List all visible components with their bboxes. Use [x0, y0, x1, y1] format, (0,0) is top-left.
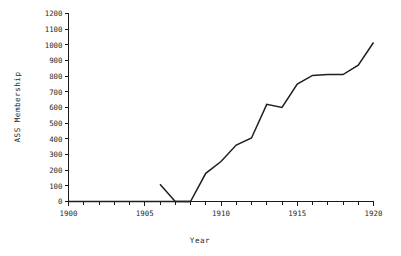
x-tick-label: 1915	[288, 209, 306, 218]
y-tick-label: 600	[49, 103, 62, 112]
x-axis-tick-labels: 19001905191019151920	[60, 209, 383, 218]
y-tick-label: 800	[49, 72, 62, 81]
x-tick-label: 1900	[60, 209, 78, 218]
y-tick-label: 500	[49, 119, 62, 128]
plot-axes	[69, 14, 374, 202]
chart-container: 0100200300400500600700800900100011001200…	[0, 0, 401, 256]
y-tick-label: 900	[49, 56, 62, 65]
membership-series-line	[160, 42, 374, 201]
y-tick-label: 1000	[45, 41, 63, 50]
x-tick-label: 1905	[136, 209, 154, 218]
y-tick-label: 700	[49, 88, 62, 97]
y-axis-title: ASS Membership	[13, 71, 22, 142]
y-tick-label: 100	[49, 182, 62, 191]
y-tick-label: 0	[58, 197, 62, 206]
y-tick-label: 1200	[45, 9, 63, 18]
y-tick-label: 1100	[45, 25, 63, 34]
y-tick-label: 300	[49, 150, 62, 159]
y-axis-tick-labels: 0100200300400500600700800900100011001200	[45, 9, 63, 206]
x-tick-label: 1910	[212, 209, 230, 218]
line-chart: 0100200300400500600700800900100011001200…	[0, 0, 401, 256]
y-tick-label: 200	[49, 166, 62, 175]
x-tick-label: 1920	[365, 209, 383, 218]
y-tick-label: 400	[49, 135, 62, 144]
x-axis-title: Year	[190, 236, 210, 245]
